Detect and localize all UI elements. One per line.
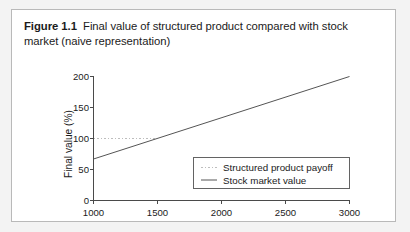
chart-legend: Structured product payoff Stock market v…	[194, 158, 350, 189]
figure-caption: Figure 1.1 Final value of structured pro…	[24, 19, 384, 48]
legend-label-stock-market-value: Stock market value	[223, 175, 307, 186]
x-tick-label-2000: 2000	[211, 207, 232, 218]
chart-plot-area: Final value (%) 200 150 100 50 0	[12, 54, 397, 221]
y-tick-label-150: 150	[73, 102, 89, 113]
legend-label-structured-product-payoff: Structured product payoff	[223, 162, 333, 173]
x-tick-label-3000: 3000	[339, 207, 360, 218]
y-tick-label-200: 200	[73, 71, 89, 82]
x-tick-label-1500: 1500	[147, 207, 168, 218]
line-chart: Final value (%) 200 150 100 50 0	[12, 54, 397, 221]
x-tick-label-1000: 1000	[83, 207, 104, 218]
figure-card: Figure 1.1 Final value of structured pro…	[11, 9, 396, 222]
y-axis-title: Final value (%)	[63, 110, 74, 178]
figure-root: Figure 1.1 Final value of structured pro…	[0, 0, 410, 232]
y-tick-label-100: 100	[73, 133, 89, 144]
y-tick-label-50: 50	[78, 164, 89, 175]
series-stock-market-value	[94, 77, 350, 160]
figure-caption-label: Figure 1.1	[24, 20, 77, 32]
x-tick-label-2500: 2500	[275, 207, 296, 218]
y-tick-label-0: 0	[84, 195, 89, 206]
